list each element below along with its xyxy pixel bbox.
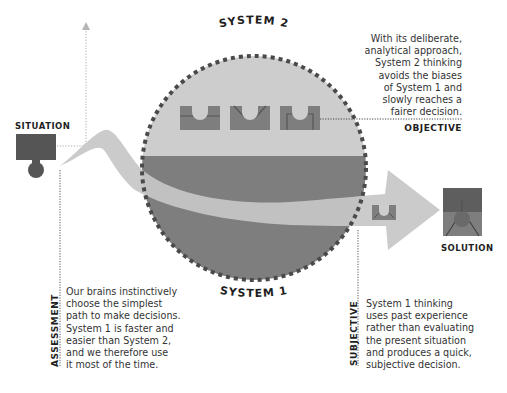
arrow-up-icon — [82, 22, 90, 30]
v-slot-icon — [230, 104, 270, 130]
arrow-piece-icon — [372, 205, 396, 220]
system1-title: SYSTEM 1 — [219, 284, 289, 300]
objective-label: OBJECTIVE — [404, 123, 462, 133]
subjective-label: SUBJECTIVE — [349, 301, 359, 366]
subjective-description: System 1 thinking uses past experience r… — [366, 298, 474, 371]
puzzle-piece-icon — [16, 134, 56, 178]
situation-label: SITUATION — [15, 121, 70, 131]
assessment-description: Our brains instinctively choose the simp… — [66, 286, 181, 371]
system2-title: SYSTEM 2 — [218, 13, 291, 30]
assessment-label: ASSESSMENT — [50, 294, 60, 367]
solution-label: SOLUTION — [441, 243, 494, 253]
fitted-piece-icon — [443, 188, 482, 236]
system2-description: With its deliberate, analytical approach… — [365, 33, 462, 118]
flat-slot-icon — [180, 104, 220, 130]
square-slot-icon — [280, 104, 320, 130]
